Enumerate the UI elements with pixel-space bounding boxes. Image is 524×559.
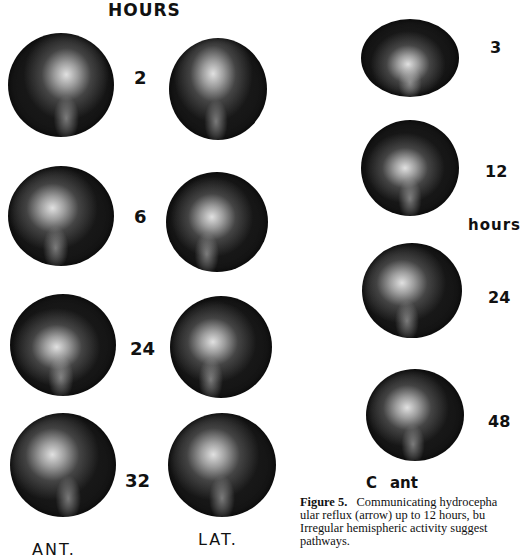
time-label-12: 12 <box>485 162 507 181</box>
scan-ant-2h <box>8 33 114 137</box>
time-label-6: 6 <box>134 206 147 227</box>
view-label-ant: ant <box>390 474 418 492</box>
scan-ant-24h <box>10 294 116 396</box>
time-label-24: 24 <box>130 338 155 359</box>
scan-c-24h <box>362 243 462 338</box>
time-label-2: 2 <box>134 67 147 88</box>
panel-letter-c: C <box>366 474 377 492</box>
scan-c-48h <box>366 369 464 461</box>
scan-lat-32h <box>168 413 276 517</box>
caption-line-4: pathways. <box>300 535 524 548</box>
column-label-ant: ANT. <box>32 540 76 559</box>
scan-c-3h <box>361 19 459 97</box>
figure-label: Figure 5. <box>300 495 347 509</box>
scan-lat-24h <box>170 296 272 398</box>
caption-text-1: Communicating hydrocepha <box>357 495 498 509</box>
scan-lat-6h <box>166 172 268 272</box>
time-label-c-24: 24 <box>488 288 510 307</box>
time-label-3: 3 <box>490 38 501 57</box>
figure-caption: Figure 5. Communicating hydrocepha ular … <box>300 496 524 548</box>
time-label-32: 32 <box>125 470 150 491</box>
hours-label: hours <box>468 216 521 234</box>
hours-header: HOURS <box>108 0 181 20</box>
scan-ant-6h <box>8 166 114 266</box>
scan-lat-2h <box>169 38 267 140</box>
scan-c-12h <box>361 120 459 216</box>
scan-ant-32h <box>10 413 116 517</box>
column-label-lat: LAT. <box>198 530 238 549</box>
time-label-48: 48 <box>488 412 510 431</box>
